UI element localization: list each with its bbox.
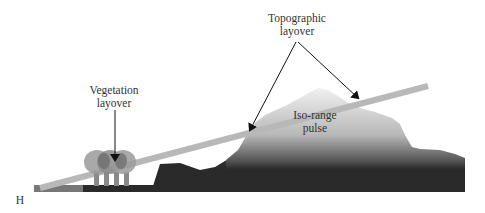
vegetation [84, 150, 136, 186]
iso-range-pulse-label: Iso-range pulse [285, 109, 345, 135]
vegetation-label-line2: layover [84, 97, 144, 110]
topographic-label-line1: Topographic [262, 12, 332, 25]
topographic-arrow-right [298, 42, 358, 98]
isorange-label-line2: pulse [285, 122, 345, 135]
h-label: H [14, 194, 26, 207]
vegetation-layover-label: Vegetation layover [84, 84, 144, 110]
layover-diagram [0, 0, 485, 213]
topographic-layover-label: Topographic layover [262, 12, 332, 38]
mountain [225, 88, 465, 192]
vegetation-label-line1: Vegetation [84, 84, 144, 97]
isorange-label-line1: Iso-range [285, 109, 345, 122]
topographic-label-line2: layover [262, 25, 332, 38]
